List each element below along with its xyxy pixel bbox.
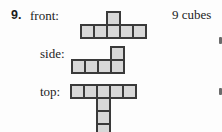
side-view-label: side:: [40, 46, 65, 61]
top-view-cell: [96, 123, 111, 132]
side-view-cell: [110, 59, 125, 74]
front-view-cell: [132, 24, 147, 39]
top-view-diagram: [70, 84, 137, 132]
top-view-cell: [122, 84, 137, 99]
page-edge-mark: [219, 88, 222, 95]
top-view-label: top:: [40, 84, 60, 99]
problem-number: 9.: [11, 8, 21, 22]
page-edge-mark: [219, 37, 222, 44]
front-view-label: front:: [30, 8, 59, 23]
side-view-diagram: [71, 46, 125, 87]
cube-count-note: 9 cubes: [172, 7, 211, 22]
